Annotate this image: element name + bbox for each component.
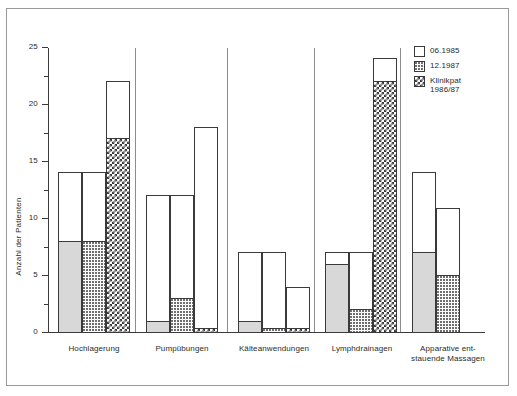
x-category-label-hochlagerung: Hochlagerung [44, 344, 144, 354]
bar-hochlagerung-06-1985 [58, 172, 82, 333]
x-category-label-line1: Apparative ent- [420, 344, 476, 353]
y-tick-10 [42, 218, 48, 219]
bar-kaelteanwendungen-klinikpat [286, 287, 310, 333]
bar-apparative-massagen-06-1985 [412, 172, 436, 333]
bar-lymphdrainagen-06-1985 [325, 252, 349, 333]
group-separator-2 [227, 48, 228, 332]
group-separator-1 [135, 48, 136, 332]
bar-pumpuebungen-06-1985 [146, 195, 170, 333]
bar-segment-filled [413, 252, 435, 332]
y-tick-minor-17.5 [44, 133, 48, 134]
bar-segment-filled [239, 321, 261, 332]
bar-pumpuebungen-klinikpat [194, 127, 218, 333]
chart-legend: 06.1985 12.1987 Klinikpat 1986/87 [414, 46, 492, 98]
y-tick-label-0: 0 [16, 327, 38, 336]
bar-pumpuebungen-12-1987 [170, 195, 194, 333]
x-category-label-pumpuebungen: Pumpübungen [132, 344, 232, 354]
bar-segment-filled [107, 138, 129, 332]
x-category-label-line2: stauende Massagen [411, 354, 485, 363]
y-axis-line [48, 48, 49, 333]
y-tick-label-20: 20 [16, 99, 38, 108]
bar-segment-filled [171, 298, 193, 332]
bar-hochlagerung-klinikpat [106, 81, 130, 333]
y-tick-0 [42, 332, 48, 333]
bar-segment-filled [287, 328, 309, 332]
x-category-label-apparative-massagen: Apparative ent-stauende Massagen [396, 344, 500, 364]
bar-chart: Anzahl der Patienten 0 5 10 15 20 25 [0, 0, 517, 396]
legend-swatch-white-icon [414, 46, 425, 57]
bar-segment-filled [147, 321, 169, 332]
legend-item-06-1985: 06.1985 [414, 46, 492, 57]
bar-kaelteanwendungen-12-1987 [262, 252, 286, 333]
legend-item-klinikpat: Klinikpat 1986/87 [414, 76, 492, 94]
bar-segment-filled [263, 328, 285, 332]
y-tick-15 [42, 161, 48, 162]
bar-segment-filled [437, 275, 459, 332]
bar-kaelteanwendungen-06-1985 [238, 252, 262, 333]
y-tick-5 [42, 275, 48, 276]
legend-label-klinikpat: Klinikpat 1986/87 [430, 76, 461, 94]
bar-lymphdrainagen-12-1987 [349, 252, 373, 333]
y-tick-minor-22.5 [44, 76, 48, 77]
legend-label-06-1985: 06.1985 [430, 46, 460, 55]
y-tick-label-25: 25 [16, 42, 38, 51]
bar-segment-filled [350, 309, 372, 332]
group-separator-3 [314, 48, 315, 332]
bar-hochlagerung-12-1987 [82, 172, 106, 333]
legend-swatch-dots-icon [414, 61, 425, 72]
y-tick-minor-12.5 [44, 190, 48, 191]
y-tick-label-5: 5 [16, 270, 38, 279]
legend-label-12-1987: 12.1987 [430, 61, 460, 70]
bar-lymphdrainagen-klinikpat [373, 58, 397, 333]
bar-segment-filled [59, 241, 81, 332]
legend-swatch-crosshatch-icon [414, 76, 425, 87]
legend-item-12-1987: 12.1987 [414, 61, 492, 72]
bar-segment-filled [195, 328, 217, 332]
y-tick-minor-2.5 [44, 304, 48, 305]
bar-segment-filled [374, 81, 396, 332]
y-tick-20 [42, 104, 48, 105]
y-tick-minor-7.5 [44, 247, 48, 248]
y-tick-label-10: 10 [16, 213, 38, 222]
y-tick-25 [42, 47, 48, 48]
bar-apparative-massagen-12-1987 [436, 208, 460, 333]
group-separator-4 [400, 48, 401, 332]
y-tick-label-15: 15 [16, 156, 38, 165]
bar-segment-filled [83, 241, 105, 332]
bar-segment-filled [326, 264, 348, 332]
